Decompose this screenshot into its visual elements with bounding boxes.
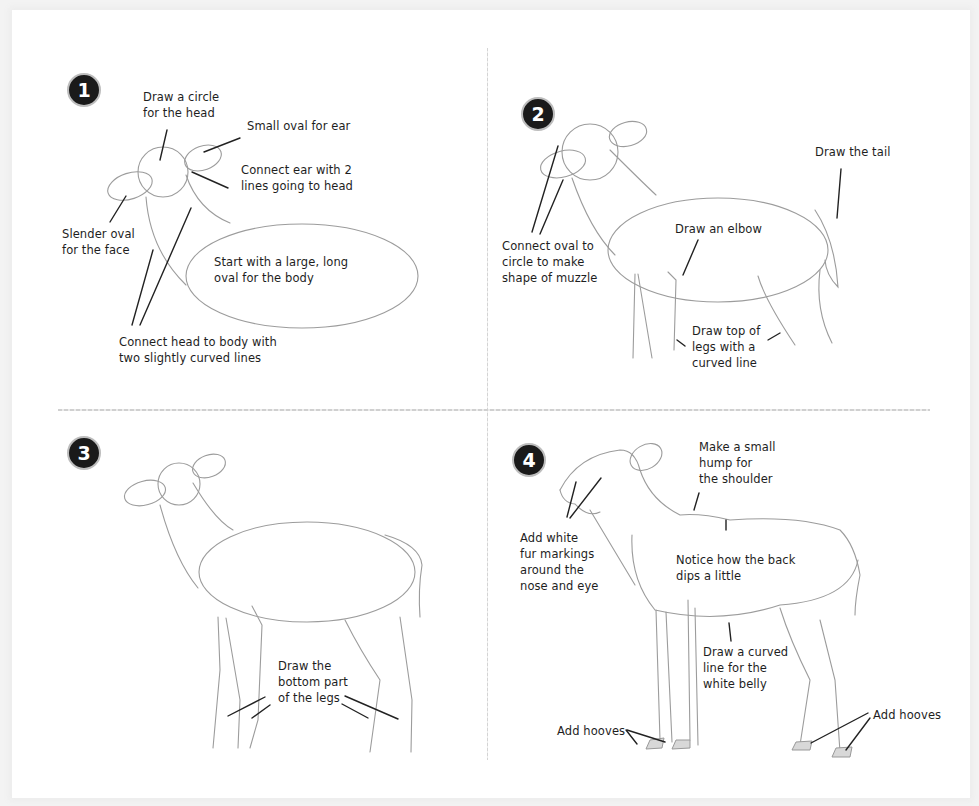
- note-legs-bottom: Draw the bottom part of the legs: [278, 658, 348, 706]
- note-fur-markings: Add white fur markings around the nose a…: [520, 530, 599, 594]
- step-1-sketch: [104, 130, 418, 328]
- note-neck-lines: Connect head to body with two slightly c…: [119, 334, 277, 366]
- step-3-badge: 3: [67, 436, 101, 470]
- note-shoulder-hump: Make a small hump for the shoulder: [699, 439, 775, 487]
- note-body-oval: Start with a large, long oval for the bo…: [214, 254, 348, 286]
- note-legs-top: Draw top of legs with a curved line: [692, 323, 760, 371]
- note-head-circle: Draw a circle for the head: [143, 89, 219, 121]
- note-elbow: Draw an elbow: [675, 221, 762, 237]
- step-3-sketch: [122, 450, 422, 752]
- note-hooves-back: Add hooves: [873, 707, 941, 723]
- note-ear-oval: Small oval for ear: [247, 118, 350, 134]
- note-white-belly: Draw a curved line for the white belly: [703, 644, 788, 692]
- note-hooves-front: Add hooves: [557, 723, 625, 739]
- step-1-badge: 1: [67, 73, 101, 107]
- note-back-dip: Notice how the back dips a little: [676, 552, 796, 584]
- note-muzzle: Connect oval to circle to make shape of …: [502, 238, 597, 286]
- step-4-badge: 4: [512, 443, 546, 477]
- note-face-oval: Slender oval for the face: [62, 226, 135, 258]
- step-2-badge: 2: [521, 97, 555, 131]
- note-connect-ear: Connect ear with 2 lines going to head: [241, 162, 353, 194]
- note-tail: Draw the tail: [815, 144, 890, 160]
